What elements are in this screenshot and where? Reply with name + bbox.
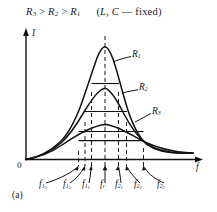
frequency-label-f12: f12	[63, 180, 71, 190]
origin-label: 0	[17, 160, 22, 170]
y-axis	[23, 28, 29, 160]
frequency-label-f22-subsub: 2	[140, 185, 142, 190]
frequency-label-f12-sub: 12	[66, 183, 71, 189]
resonance-curves-figure: R3 > R2 > R1 (L, C — fixed)	[0, 0, 217, 212]
frequency-label-f13-subsub: 3	[45, 185, 47, 190]
curve-label-r1-sub: 1	[138, 53, 141, 59]
frequency-label-f11-sub: 11	[85, 183, 90, 189]
frequency-label-f13: f13	[39, 180, 47, 190]
frequency-label-f22-sub: 22	[137, 183, 142, 189]
curve-label-r1: R1	[132, 50, 141, 60]
curve-label-r3-sub: 3	[158, 110, 161, 116]
x-axis	[26, 157, 203, 163]
frequency-label-f22: f22	[134, 180, 142, 190]
curve-label-r2: R2	[139, 83, 148, 93]
curve-r3	[26, 124, 193, 159]
curve-r1	[26, 47, 193, 160]
y-axis-label: I	[32, 29, 35, 39]
curve-label-r2-sub: 2	[145, 86, 148, 92]
frequency-label-fr: fr	[100, 180, 105, 190]
frequency-label-f11-subsub: 1	[88, 185, 90, 190]
figure-caption: (a)	[12, 190, 23, 200]
frequency-label-f21: f21	[115, 180, 123, 190]
x-axis-label: f	[196, 163, 199, 173]
curve-label-r3: R3	[152, 107, 161, 117]
frequency-label-f11: f11	[82, 180, 90, 190]
frequency-label-f13-sub: 13	[42, 183, 47, 189]
frequency-label-f21-subsub: 1	[121, 185, 123, 190]
frequency-label-f23: f23	[157, 180, 165, 190]
frequency-label-f23-sub: 23	[160, 183, 165, 189]
frequency-label-f23-subsub: 3	[163, 185, 165, 190]
frequency-label-fr-sub: r	[103, 183, 105, 189]
frequency-label-f21-sub: 21	[118, 183, 123, 189]
frequency-label-f12-subsub: 2	[69, 185, 71, 190]
